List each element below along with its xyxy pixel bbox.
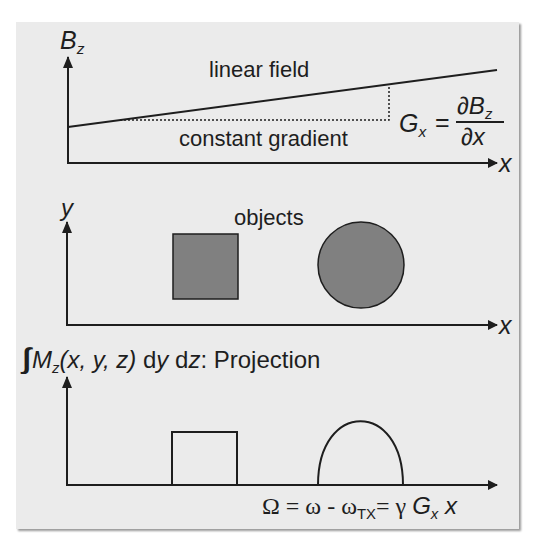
- formula-numerator: ∂Bz: [457, 94, 492, 118]
- x-axis-label-middle: x: [499, 313, 512, 338]
- y-axis-label: y: [61, 196, 73, 220]
- projection-label: ∫∫ Mz(x, y, z) dy dz: Projection: [22, 345, 320, 373]
- equals-sign: =: [435, 110, 450, 135]
- circle-projection-profile: [318, 421, 403, 485]
- linear-field-label: linear field: [209, 59, 309, 81]
- middle-panel-axes: [66, 222, 497, 325]
- objects-label: objects: [234, 207, 304, 229]
- gx-symbol: Gx: [399, 111, 426, 136]
- gradient-formula: Gx = ∂Bz ∂x: [399, 98, 509, 153]
- circle-object: [318, 222, 404, 308]
- bz-axis-label: Bz: [60, 28, 84, 53]
- bottom-panel-axes: [66, 377, 497, 485]
- constant-gradient-label: constant gradient: [179, 128, 348, 150]
- formula-denominator: ∂x: [461, 125, 485, 149]
- double-integral-symbol: ∫∫: [22, 343, 25, 374]
- square-projection-profile: [172, 432, 237, 485]
- omega-axis-label: Ω = ω - ωTX= γ Gx x: [262, 494, 457, 518]
- x-axis-label-top: x: [499, 151, 512, 176]
- square-object: [173, 234, 238, 299]
